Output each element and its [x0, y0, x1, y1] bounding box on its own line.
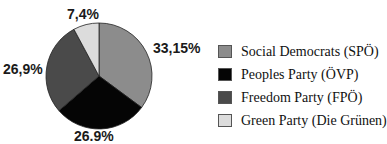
swatch-fpo	[218, 91, 232, 104]
swatch-spo	[218, 45, 232, 58]
legend: Social Democrats (SPÖ) Peoples Party (ÖV…	[218, 40, 387, 132]
swatch-ovp	[218, 68, 232, 81]
legend-label-green: Green Party (Die Grünen)	[241, 113, 387, 129]
legend-label-ovp: Peoples Party (ÖVP)	[241, 67, 358, 83]
legend-label-fpo: Freedom Party (FPÖ)	[241, 90, 362, 106]
legend-item-ovp: Peoples Party (ÖVP)	[218, 63, 387, 86]
label-ovp: 26.9%	[74, 128, 114, 144]
legend-item-fpo: Freedom Party (FPÖ)	[218, 86, 387, 109]
label-spo: 33,15%	[153, 40, 200, 56]
legend-item-spo: Social Democrats (SPÖ)	[218, 40, 387, 63]
legend-label-spo: Social Democrats (SPÖ)	[241, 44, 379, 60]
legend-item-green: Green Party (Die Grünen)	[218, 109, 387, 132]
label-green: 7,4%	[67, 6, 99, 22]
swatch-green	[218, 114, 232, 127]
label-fpo: 26,9%	[3, 61, 43, 77]
